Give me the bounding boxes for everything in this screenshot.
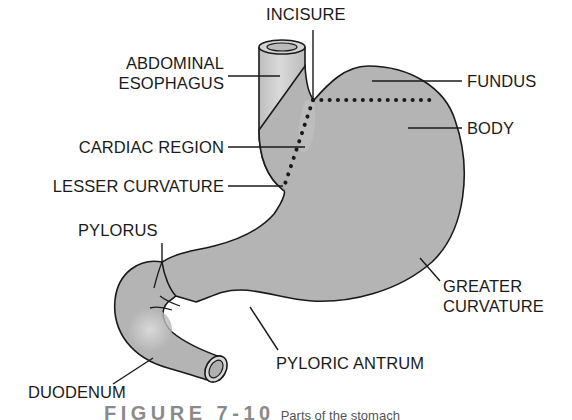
figure-description: Parts of the stomach xyxy=(281,408,400,420)
label-abdominal-esophagus-line2: ESOPHAGUS xyxy=(88,73,224,93)
leader-duodenum xyxy=(113,358,153,384)
label-body: BODY xyxy=(467,118,514,138)
label-greater-curvature-line2: CURVATURE xyxy=(443,296,544,316)
label-greater-curvature-line1: GREATER xyxy=(443,276,522,296)
figure-number: FIGURE 7-10 xyxy=(104,402,275,420)
label-lesser-curvature: LESSER CURVATURE xyxy=(2,176,224,196)
figure-caption: FIGURE 7-10Parts of the stomach xyxy=(104,402,400,420)
label-pylorus: PYLORUS xyxy=(78,220,158,240)
label-abdominal-esophagus-line1: ABDOMINAL xyxy=(88,53,224,73)
label-incisure: INCISURE xyxy=(266,4,346,24)
leader-pyloric-antrum xyxy=(250,307,278,350)
label-pyloric-antrum: PYLORIC ANTRUM xyxy=(276,353,424,373)
label-cardiac-region: CARDIAC REGION xyxy=(20,137,224,157)
label-fundus: FUNDUS xyxy=(467,71,536,91)
label-duodenum: DUODENUM xyxy=(28,382,126,402)
